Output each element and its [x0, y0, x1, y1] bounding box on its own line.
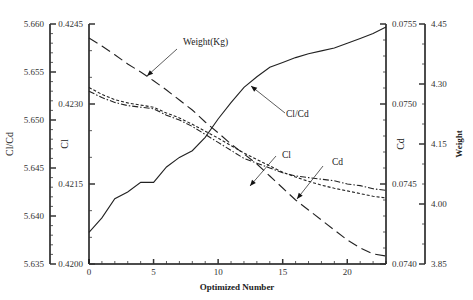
clcd-tick-label: 5.660: [24, 19, 45, 29]
annotation-arrowhead-icon: [297, 193, 303, 199]
cl-tick-label: 0.4215: [58, 179, 83, 189]
series-weight-kg: [89, 38, 386, 256]
cl-tick-label: 0.4230: [58, 99, 83, 109]
multi-axis-line-chart: 051015205.6355.6405.6455.6505.6555.6600.…: [0, 0, 473, 300]
clcd-tick-label: 5.655: [24, 67, 45, 77]
annotation-layer: Weight(Kg)Cl/CdClCd: [147, 37, 343, 199]
annotation-arrow-line: [297, 166, 323, 199]
x-tick-label: 20: [343, 267, 353, 277]
cl-tick-label: 0.4200: [58, 259, 83, 269]
cl-axis-title: Cl: [59, 139, 70, 149]
weight-tick-label: 3.85: [431, 259, 447, 269]
cd-tick-label: 0.0755: [392, 19, 417, 29]
x-tick-label: 15: [278, 267, 288, 277]
weight-tick-label: 4.00: [431, 199, 447, 209]
annotation-arrow-line: [251, 86, 285, 113]
clcd-tick-label: 5.635: [24, 259, 45, 269]
clcd-tick-label: 5.640: [24, 211, 45, 221]
x-tick-label: 10: [214, 267, 224, 277]
x-tick-label: 5: [151, 267, 156, 277]
cd-tick-label: 0.0745: [392, 179, 417, 189]
series-cl: [89, 88, 386, 198]
annotation-arrow-line: [147, 49, 177, 76]
axes-layer: 051015205.6355.6405.6455.6505.6555.6600.…: [4, 19, 464, 277]
cl-tick-label: 0.4245: [58, 19, 83, 29]
weight-axis-title: Weight: [454, 130, 464, 158]
clcd-tick-label: 5.650: [24, 115, 45, 125]
weight-tick-label: 4.30: [431, 79, 447, 89]
x-axis-title: Optimized Number: [200, 282, 275, 292]
weight-tick-label: 4.15: [431, 139, 447, 149]
series-cd: [89, 91, 386, 190]
x-tick-label: 0: [87, 267, 92, 277]
series-cl-cd: [89, 27, 386, 232]
weight-tick-label: 4.45: [431, 19, 447, 29]
cd-tick-label: 0.0740: [392, 259, 417, 269]
annotation-label: Cd: [332, 157, 343, 167]
annotation-arrowhead-icon: [251, 86, 257, 92]
clcd-tick-label: 5.645: [24, 163, 45, 173]
annotation-label: Weight(Kg): [183, 37, 228, 48]
clcd-axis-title: Cl/Cd: [4, 132, 15, 156]
annotation-label: Cl: [282, 150, 291, 160]
cd-tick-label: 0.0750: [392, 99, 417, 109]
series-layer: [89, 27, 386, 256]
cd-axis-title: Cd: [395, 138, 406, 150]
annotation-label: Cl/Cd: [286, 109, 309, 119]
